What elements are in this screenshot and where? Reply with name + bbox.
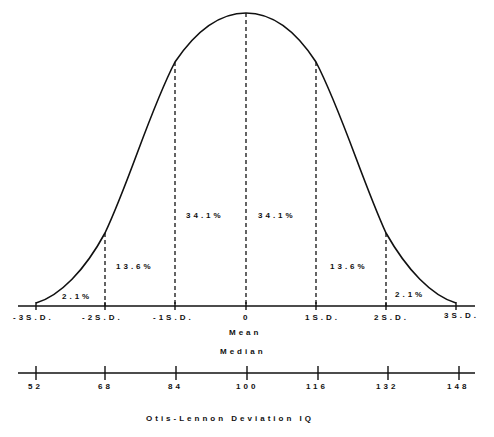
segment-label: 13.6% bbox=[330, 262, 368, 271]
iq-tick-label: 52 bbox=[28, 382, 43, 391]
segment-label: 2.1% bbox=[395, 290, 425, 299]
iq-tick-label: 68 bbox=[98, 382, 113, 391]
sd-tick-label: -2S.D. bbox=[82, 313, 123, 322]
sd-tick-label: 1S.D. bbox=[305, 313, 340, 322]
segment-label: 34.1% bbox=[258, 211, 296, 220]
sd-tick-label: 3S.D. bbox=[444, 311, 479, 320]
sd-tick-label: 2S.D. bbox=[374, 313, 409, 322]
segment-label: 2.1% bbox=[62, 292, 92, 301]
median-label: Median bbox=[220, 347, 266, 356]
iq-tick-label: 148 bbox=[447, 382, 469, 391]
iq-tick-label: 116 bbox=[306, 382, 328, 391]
sd-tick-label: -3S.D. bbox=[13, 313, 54, 322]
segment-label: 34.1% bbox=[186, 211, 224, 220]
iq-tick-label: 84 bbox=[168, 382, 183, 391]
iq-tick-label: 132 bbox=[376, 382, 398, 391]
normal-curve-chart bbox=[0, 0, 494, 437]
sd-tick-label: -1S.D. bbox=[153, 313, 194, 322]
iq-tick-label: 100 bbox=[236, 382, 258, 391]
sd-tick-label: 0 bbox=[243, 313, 250, 322]
mean-label: Mean bbox=[229, 328, 261, 337]
x-axis-title: Otis-Lennon Deviation IQ bbox=[146, 414, 314, 423]
segment-label: 13.6% bbox=[116, 262, 154, 271]
